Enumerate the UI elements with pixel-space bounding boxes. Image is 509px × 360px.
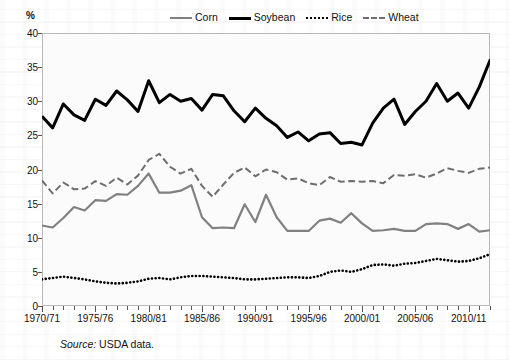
y-tick-label: 35 [4, 62, 38, 73]
x-tick-mark [213, 306, 214, 310]
crop-share-line-chart: Corn Soybean Rice Wheat % 05101520253035… [0, 0, 509, 360]
x-tick-mark [234, 306, 235, 310]
x-tick-mark-major [255, 306, 256, 312]
x-tick-mark [245, 306, 246, 310]
legend-item-corn[interactable]: Corn [170, 12, 218, 23]
x-tick-mark [138, 306, 139, 310]
x-tick-mark-major [362, 306, 363, 312]
y-tick-label: 5 [4, 266, 38, 277]
x-tick-mark [191, 306, 192, 310]
series-layer [42, 33, 490, 306]
x-tick-label: 1995/96 [291, 313, 327, 324]
y-tick-label: 40 [4, 28, 38, 39]
x-tick-label: 1985/86 [184, 313, 220, 324]
x-tick-mark-major [469, 306, 470, 312]
x-tick-mark-major [309, 306, 310, 312]
source-note: Source: USDA data. [60, 338, 154, 350]
x-tick-label: 2005/06 [397, 313, 433, 324]
y-tick-label: 0 [4, 301, 38, 312]
series-line-soybean [42, 51, 490, 145]
legend-label-soybean: Soybean [254, 12, 295, 23]
x-tick-mark-major [415, 306, 416, 312]
x-tick-label: 1970/71 [24, 313, 60, 324]
x-tick-mark-major [202, 306, 203, 312]
source-prefix: Source: [60, 338, 96, 350]
x-tick-mark [351, 306, 352, 310]
legend-item-wheat[interactable]: Wheat [363, 12, 418, 23]
x-tick-mark [170, 306, 171, 310]
y-tick-label: 25 [4, 130, 38, 141]
x-tick-mark-major [42, 306, 43, 312]
x-tick-label: 1990/91 [237, 313, 273, 324]
x-tick-mark [479, 306, 480, 310]
legend-label-corn: Corn [195, 12, 218, 23]
corn-line-key-icon [170, 13, 192, 22]
x-tick-mark [394, 306, 395, 310]
x-tick-mark [117, 306, 118, 310]
x-tick-mark [319, 306, 320, 310]
x-tick-mark [437, 306, 438, 310]
x-tick-mark [373, 306, 374, 310]
y-axis: 0510152025303540 [0, 0, 38, 360]
legend-item-soybean[interactable]: Soybean [229, 12, 295, 23]
legend-item-rice[interactable]: Rice [306, 12, 352, 23]
x-tick-mark [85, 306, 86, 310]
x-tick-mark [447, 306, 448, 310]
x-tick-mark [405, 306, 406, 310]
soybean-line-key-icon [229, 13, 251, 22]
x-tick-mark [266, 306, 267, 310]
wheat-line-key-icon [363, 13, 385, 22]
series-line-rice [42, 253, 490, 284]
y-tick-label: 30 [4, 96, 38, 107]
x-tick-mark [330, 306, 331, 310]
x-tick-label: 2000/01 [344, 313, 380, 324]
x-tick-mark-major [95, 306, 96, 312]
x-axis-labels: 1970/711975/761980/811985/861990/911995/… [0, 313, 509, 329]
y-tick-label: 20 [4, 164, 38, 175]
x-tick-mark [127, 306, 128, 310]
x-axis-ticks [42, 306, 490, 312]
source-text: USDA data. [96, 338, 154, 350]
x-tick-mark [106, 306, 107, 310]
x-tick-mark [181, 306, 182, 310]
legend-label-wheat: Wheat [388, 12, 418, 23]
series-line-wheat [42, 154, 490, 197]
chart-legend: Corn Soybean Rice Wheat [170, 12, 419, 23]
x-tick-mark [458, 306, 459, 310]
x-tick-mark [63, 306, 64, 310]
x-tick-mark [159, 306, 160, 310]
y-tick-label: 10 [4, 232, 38, 243]
x-tick-mark [53, 306, 54, 310]
x-tick-label: 1980/81 [131, 313, 167, 324]
x-tick-mark [223, 306, 224, 310]
x-tick-mark-major [149, 306, 150, 312]
x-tick-label: 2010/11 [451, 313, 486, 324]
y-tick-label: 15 [4, 198, 38, 209]
x-tick-mark [426, 306, 427, 310]
x-tick-mark [74, 306, 75, 310]
x-tick-mark [277, 306, 278, 310]
legend-label-rice: Rice [331, 12, 352, 23]
rice-line-key-icon [306, 13, 328, 22]
x-tick-label: 1975/76 [77, 313, 113, 324]
x-tick-mark [341, 306, 342, 310]
x-tick-mark [287, 306, 288, 310]
x-tick-mark [298, 306, 299, 310]
x-tick-mark [383, 306, 384, 310]
x-tick-mark [490, 306, 491, 310]
